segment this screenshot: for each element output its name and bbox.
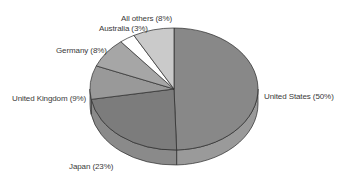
pie-chart bbox=[0, 0, 340, 181]
pie-slices bbox=[90, 28, 258, 150]
label-australia: Australia (3%) bbox=[99, 24, 148, 33]
pie-slice-japan bbox=[91, 89, 176, 150]
label-united-kingdom: United Kingdom (9%) bbox=[12, 94, 86, 103]
label-united-states: United States (50%) bbox=[264, 92, 334, 101]
label-germany: Germany (8%) bbox=[56, 46, 107, 55]
label-japan: Japan (23%) bbox=[69, 162, 113, 171]
label-all-others: All others (8%) bbox=[121, 14, 172, 23]
